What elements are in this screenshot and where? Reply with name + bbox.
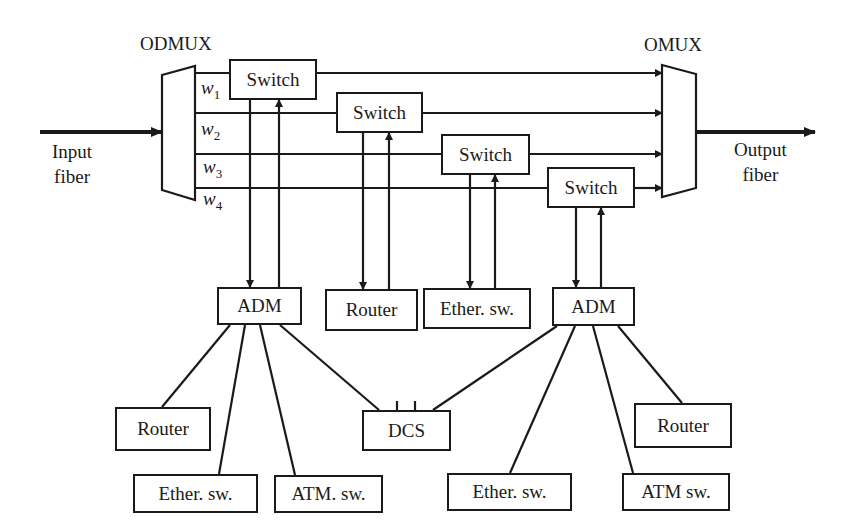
switch-w1: Switch (229, 59, 317, 100)
input-fiber-label: Input fiber (52, 140, 92, 189)
router-bottom-left: Router (115, 407, 211, 451)
router-bottom-right: Router (634, 403, 732, 448)
atm-switch-bottom-left: ATM. sw. (274, 475, 383, 513)
input-label-line1: Input (52, 140, 92, 165)
input-label-line2: fiber (52, 165, 92, 190)
odmux-shape (162, 66, 195, 200)
router-mid: Router (325, 289, 418, 331)
output-label-line2: fiber (734, 163, 787, 188)
atm-switch-bottom-right: ATM sw. (622, 473, 730, 511)
connection-lines (0, 0, 844, 531)
wavelength-w4: w4 (203, 188, 222, 214)
ether-switch-mid: Ether. sw. (423, 288, 531, 329)
odmux-label: ODMUX (140, 32, 212, 57)
switch-w2: Switch (336, 92, 423, 133)
output-fiber-label: Output fiber (734, 138, 787, 187)
switch-w4: Switch (547, 167, 635, 208)
ether-switch-bottom-right: Ether. sw. (447, 473, 572, 511)
wdm-network-diagram: ODMUX OMUX Input fiber Output fiber w1 w… (0, 0, 844, 531)
omux-label: OMUX (644, 33, 702, 58)
adm-left: ADM (217, 287, 302, 325)
output-label-line1: Output (734, 138, 787, 163)
wavelength-w2: w2 (201, 118, 220, 144)
switch-w3: Switch (441, 134, 530, 175)
ether-switch-bottom-left: Ether. sw. (133, 474, 258, 513)
dcs: DCS (362, 410, 451, 451)
wavelength-w1: w1 (201, 77, 220, 103)
wavelength-w3: w3 (203, 156, 222, 182)
adm-right: ADM (552, 287, 635, 326)
omux-shape (662, 65, 696, 197)
